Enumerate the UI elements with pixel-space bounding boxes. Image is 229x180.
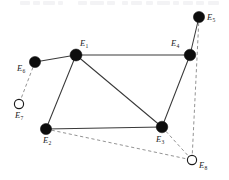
node-label-e7: E7 (15, 111, 23, 120)
node-label-subscript: 1 (85, 43, 88, 49)
node-label-subscript: 2 (48, 140, 51, 146)
graph-node-e5[interactable] (193, 11, 204, 22)
node-label-e3: E3 (156, 135, 164, 144)
graph-edge-e2-e3 (46, 127, 162, 129)
node-label-e1: E1 (80, 39, 88, 48)
node-label-e4: E4 (171, 39, 179, 48)
graph-figure: E5E1E4E6E7E2E3E8 (0, 0, 229, 180)
node-label-subscript: 3 (161, 139, 164, 145)
graph-node-e2[interactable] (40, 123, 51, 134)
node-label-subscript: 6 (22, 68, 25, 74)
node-label-subscript: 7 (20, 115, 23, 121)
graph-node-e1[interactable] (70, 49, 82, 61)
node-label-e5: E5 (207, 13, 215, 22)
graph-edge-e1-e2 (46, 55, 76, 129)
graph-edge-e3-e4 (162, 55, 190, 127)
graph-node-e6[interactable] (29, 56, 40, 67)
node-label-e8: E8 (199, 161, 207, 170)
graph-node-e4[interactable] (184, 49, 196, 61)
graph-canvas (0, 0, 229, 180)
node-label-subscript: 8 (204, 165, 207, 171)
graph-edge-e2-e8 (46, 129, 192, 160)
graph-node-e8[interactable] (187, 155, 196, 164)
node-label-e6: E6 (17, 64, 25, 73)
node-label-e2: E2 (43, 136, 51, 145)
graph-node-e7[interactable] (14, 99, 23, 108)
node-label-subscript: 5 (212, 17, 215, 23)
node-label-subscript: 4 (176, 43, 179, 49)
graph-edge-e1-e3 (76, 55, 162, 127)
graph-node-e3[interactable] (156, 121, 168, 133)
graph-edge-e5-e8 (192, 17, 199, 160)
